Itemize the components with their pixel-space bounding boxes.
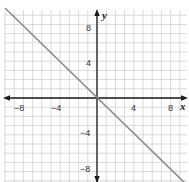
x-tick-label: 8 bbox=[168, 103, 173, 113]
y-tick-label: 8 bbox=[86, 23, 91, 33]
x-axis-label: x bbox=[179, 100, 186, 112]
y-tick-label: −8 bbox=[80, 164, 90, 174]
coordinate-plane-chart: y x −8 −4 4 8 8 4 −4 −8 bbox=[0, 0, 189, 182]
x-axis-left-arrow-icon bbox=[3, 95, 10, 100]
y-tick-label: −4 bbox=[80, 128, 90, 138]
x-tick-label: −8 bbox=[14, 103, 24, 113]
y-axis-label: y bbox=[100, 9, 107, 21]
x-tick-label: 4 bbox=[131, 103, 136, 113]
y-axis-up-arrow-icon bbox=[94, 9, 99, 16]
x-tick-label: −4 bbox=[51, 103, 61, 113]
y-tick-label: 4 bbox=[86, 58, 91, 68]
